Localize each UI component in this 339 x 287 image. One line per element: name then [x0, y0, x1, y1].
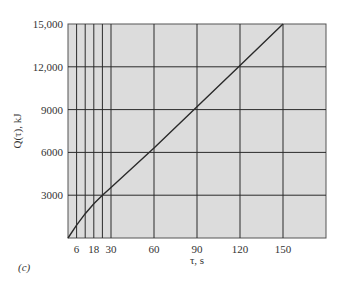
y-axis-label: Q(τ), kJ	[11, 113, 24, 149]
y-tick-label: 3000	[41, 189, 64, 201]
y-tick-label: 9000	[41, 104, 64, 116]
panel-label: (c)	[18, 261, 31, 274]
x-tick-label: 18	[88, 243, 100, 255]
x-tick-label: 120	[232, 243, 249, 255]
x-axis-label: τ, s	[190, 254, 204, 266]
x-tick-label: 6	[74, 243, 80, 255]
x-axis-ticks: 618306090120150	[74, 243, 292, 255]
x-tick-label: 60	[149, 243, 161, 255]
y-axis-ticks: 30006000900012,00015,000	[33, 18, 64, 201]
y-tick-label: 6000	[41, 146, 64, 158]
chart: 30006000900012,00015,000 618306090120150…	[0, 0, 339, 287]
x-tick-label: 30	[106, 243, 118, 255]
y-tick-label: 15,000	[33, 18, 64, 30]
y-tick-label: 12,000	[33, 61, 64, 73]
x-tick-label: 150	[275, 243, 292, 255]
